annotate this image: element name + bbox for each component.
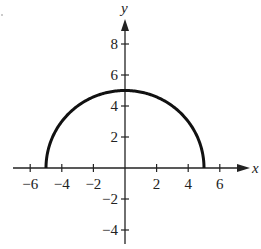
x-tick-label: 2 bbox=[153, 176, 161, 192]
y-tick-label: −4 bbox=[102, 222, 118, 238]
y-axis-arrow-icon bbox=[121, 19, 129, 31]
x-tick-label: 4 bbox=[184, 176, 192, 192]
y-tick-label: 4 bbox=[111, 98, 119, 114]
x-axis-label: x bbox=[251, 160, 259, 176]
stray-mark bbox=[1, 14, 3, 16]
y-tick-label: 6 bbox=[111, 67, 119, 83]
y-tick-label: 8 bbox=[111, 36, 119, 52]
x-tick-label: −4 bbox=[54, 176, 70, 192]
y-axis-label: y bbox=[119, 0, 128, 16]
y-tick-label: −2 bbox=[102, 191, 118, 207]
x-axis-arrow-icon bbox=[237, 164, 250, 172]
x-tick-label: −2 bbox=[85, 176, 101, 192]
y-axis bbox=[121, 19, 129, 244]
x-tick-label: −6 bbox=[22, 176, 38, 192]
y-tick-label: 2 bbox=[111, 129, 119, 145]
semicircle-plot: −6−4−2246 8642−2−4 x y bbox=[0, 0, 261, 249]
x-tick-label: 6 bbox=[216, 176, 224, 192]
x-axis bbox=[13, 164, 250, 172]
